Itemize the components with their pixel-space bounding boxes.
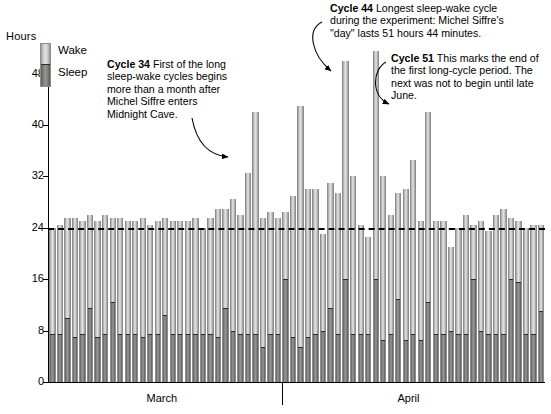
- reference-line-24-hours: [48, 228, 545, 230]
- bar-cycle-33: [290, 196, 296, 382]
- legend-label-sleep: Sleep: [58, 66, 87, 78]
- y-axis-tick-mark-40: [43, 125, 48, 126]
- bar-cycle-42: [358, 225, 364, 382]
- bar-cycle-12: [132, 221, 138, 382]
- bar-sleep-segment: [441, 334, 445, 382]
- bar-cycle-13: [140, 218, 146, 382]
- bar-sleep-segment: [253, 334, 257, 382]
- bar-cycle-26: [237, 215, 243, 382]
- bar-sleep-segment: [58, 334, 62, 382]
- bar-sleep-segment: [238, 334, 242, 382]
- x-axis-line: [48, 382, 545, 383]
- bar-sleep-segment: [291, 337, 295, 382]
- y-axis-tick-mark-8: [43, 331, 48, 332]
- bar-sleep-segment: [374, 279, 378, 382]
- legend-swatch-sleep: [41, 64, 50, 86]
- bar-sleep-segment: [156, 334, 160, 382]
- bar-sleep-segment: [186, 334, 190, 382]
- bar-cycle-22: [207, 218, 213, 382]
- bar-sleep-segment: [486, 334, 490, 382]
- bar-sleep-segment: [268, 334, 272, 382]
- bar-cycle-59: [485, 231, 491, 382]
- y-axis-tick-label-40: 40: [18, 118, 44, 130]
- bar-cycle-17: [170, 221, 176, 382]
- bar-cycle-39: [335, 193, 341, 382]
- bar-sleep-segment: [524, 334, 528, 382]
- bar-cycle-23: [215, 209, 221, 382]
- y-axis-tick-mark-32: [43, 176, 48, 177]
- bar-sleep-segment: [328, 308, 332, 382]
- bar-cycle-55: [455, 228, 461, 382]
- bar-sleep-segment: [411, 334, 415, 382]
- bar-cycle-52: [433, 221, 439, 382]
- bar-cycle-44: [373, 51, 379, 382]
- bar-cycle-31: [275, 218, 281, 382]
- bar-cycle-15: [155, 221, 161, 382]
- bar-cycle-66: [538, 225, 544, 382]
- bar-sleep-segment: [208, 334, 212, 382]
- bar-sleep-segment: [73, 337, 77, 382]
- bar-sleep-segment: [223, 308, 227, 382]
- bar-sleep-segment: [50, 334, 54, 382]
- bar-sleep-segment: [126, 334, 130, 382]
- y-axis-tick-mark-0: [43, 382, 48, 383]
- bar-cycle-30: [267, 212, 273, 382]
- bar-cycle-9: [110, 218, 116, 382]
- bar-sleep-segment: [404, 340, 408, 382]
- bar-sleep-segment: [389, 334, 393, 382]
- bar-sleep-segment: [509, 279, 513, 382]
- bar-cycle-20: [192, 218, 198, 382]
- bar-sleep-segment: [103, 334, 107, 382]
- bar-sleep-segment: [419, 340, 423, 382]
- bar-sleep-segment: [531, 334, 535, 382]
- bar-sleep-segment: [366, 334, 370, 382]
- bar-cycle-56: [463, 215, 469, 382]
- bar-sleep-segment: [283, 279, 287, 382]
- bar-sleep-segment: [313, 334, 317, 382]
- y-axis-tick-mark-16: [43, 279, 48, 280]
- annotation-cycle-34-bold: Cycle 34: [107, 58, 150, 70]
- bar-cycle-48: [403, 189, 409, 382]
- bar-sleep-segment: [231, 331, 235, 382]
- bar-sleep-segment: [343, 279, 347, 382]
- bar-cycle-2: [57, 225, 63, 382]
- legend-swatch: [40, 43, 51, 87]
- bar-sleep-segment: [456, 334, 460, 382]
- bar-sleep-segment: [516, 282, 520, 382]
- bar-sleep-segment: [95, 337, 99, 382]
- bar-sleep-segment: [141, 337, 145, 382]
- y-axis-tick-label-16: 16: [18, 272, 44, 284]
- bar-cycle-3: [64, 218, 70, 382]
- y-axis-tick-label-8: 8: [18, 324, 44, 336]
- bar-cycle-65: [530, 225, 536, 382]
- bar-cycle-35: [305, 189, 311, 382]
- bar-cycle-6: [87, 215, 93, 382]
- sleep-wake-cycle-chart: Hours 081624324048 Wake Sleep Cycle 34 F…: [0, 0, 551, 414]
- bar-sleep-segment: [88, 308, 92, 382]
- bar-cycle-54: [448, 247, 454, 382]
- bar-cycle-1: [49, 228, 55, 382]
- x-axis-label-april: April: [397, 392, 419, 404]
- bar-sleep-segment: [449, 331, 453, 382]
- bar-sleep-segment: [381, 340, 385, 382]
- bar-sleep-segment: [494, 334, 498, 382]
- annotation-cycle-44: Cycle 44 Longest sleep-wake cycle during…: [330, 2, 506, 39]
- bar-sleep-segment: [359, 334, 363, 382]
- annotation-cycle-44-bold: Cycle 44: [330, 2, 373, 14]
- bar-sleep-segment: [471, 279, 475, 382]
- bar-cycle-62: [508, 218, 514, 382]
- bar-cycle-21: [200, 228, 206, 382]
- bar-sleep-segment: [118, 334, 122, 382]
- annotation-cycle-51: Cycle 51 This marks the end of the first…: [391, 52, 545, 102]
- bar-sleep-segment: [321, 331, 325, 382]
- bar-cycle-57: [470, 225, 476, 382]
- bar-sleep-segment: [336, 334, 340, 382]
- bar-sleep-segment: [193, 334, 197, 382]
- bar-cycle-41: [350, 176, 356, 382]
- bar-sleep-segment: [261, 347, 265, 382]
- bar-sleep-segment: [148, 334, 152, 382]
- bar-sleep-segment: [65, 318, 69, 382]
- bar-sleep-segment: [171, 334, 175, 382]
- x-axis-label-march: March: [146, 392, 177, 404]
- annotation-cycle-51-bold: Cycle 51: [391, 52, 434, 64]
